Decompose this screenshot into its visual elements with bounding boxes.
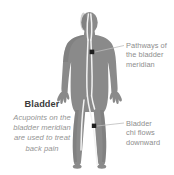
bladder-heading: Bladder xyxy=(4,99,80,110)
bladder-description-line-1: Acupoints on the xyxy=(4,113,80,123)
callout-pathways-label: Pathways of the bladder meridian xyxy=(126,41,174,69)
callout-chi-line-3: downward xyxy=(126,138,174,147)
bladder-description-line-3: are used to treat xyxy=(4,133,80,143)
callout-chi-line-2: chi flows xyxy=(126,128,174,137)
acupoint-upper-back xyxy=(90,50,95,55)
bladder-description-block: Bladder Acupoints on the bladder meridia… xyxy=(4,99,80,154)
callout-chi-line-1: Bladder xyxy=(126,119,174,128)
bladder-description-text: Acupoints on the bladder meridian are us… xyxy=(4,113,80,154)
callout-chi-flow-label: Bladder chi flows downward xyxy=(126,119,174,147)
bladder-meridian-diagram: Pathways of the bladder meridian Bladder… xyxy=(0,0,174,175)
callout-pathways-line-1: Pathways of xyxy=(126,41,174,50)
acupoint-knee xyxy=(92,124,96,128)
bladder-description-line-4: back pain xyxy=(4,144,80,154)
callout-pathways-line-2: the bladder xyxy=(126,50,174,59)
bladder-description-line-2: bladder meridian xyxy=(4,123,80,133)
callout-pathways-line-3: meridian xyxy=(126,60,174,69)
